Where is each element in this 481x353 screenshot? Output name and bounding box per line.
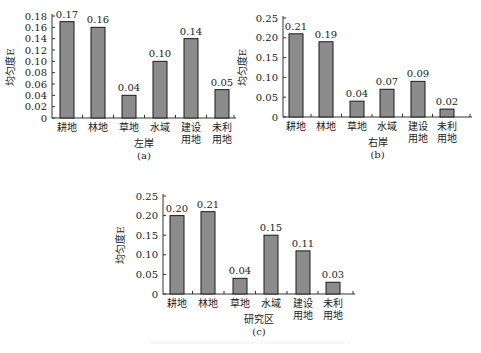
category-label: 建设 bbox=[408, 120, 428, 132]
category-label: 耕地 bbox=[57, 121, 77, 133]
bar-value-label: 0.10 bbox=[149, 48, 171, 59]
category-label: 用地 bbox=[323, 309, 343, 321]
category-label: 林地 bbox=[316, 120, 336, 132]
bar bbox=[60, 22, 74, 118]
category-label: 用地 bbox=[212, 133, 232, 145]
bar-value-label: 0.20 bbox=[166, 203, 188, 214]
y-tick-label: 0 bbox=[152, 289, 158, 300]
y-tick-label: 0.16 bbox=[25, 22, 47, 33]
x-axis-title: 研究区 bbox=[244, 313, 274, 325]
y-tick-label: 0.18 bbox=[25, 11, 47, 22]
y-tick-label: 0.10 bbox=[25, 56, 47, 67]
bar-value-label: 0.14 bbox=[180, 26, 202, 37]
y-tick-label: 0.06 bbox=[25, 79, 47, 90]
bar-value-label: 0.09 bbox=[407, 68, 429, 79]
bar bbox=[350, 101, 364, 117]
category-label: 建设 bbox=[181, 121, 201, 133]
bar-value-label: 0.21 bbox=[285, 21, 307, 32]
y-tick-label: 0.14 bbox=[25, 33, 47, 44]
category-label: 未利 bbox=[212, 122, 232, 133]
panel-label: (c) bbox=[252, 326, 266, 337]
category-label: 水域 bbox=[150, 121, 170, 133]
category-label: 未利 bbox=[437, 121, 457, 132]
bar-value-label: 0.04 bbox=[346, 88, 368, 99]
y-tick-label: 0.25 bbox=[136, 191, 158, 202]
bar bbox=[215, 90, 229, 118]
y-tick-label: 0.15 bbox=[136, 230, 158, 241]
bar bbox=[201, 212, 215, 294]
bar bbox=[91, 27, 105, 118]
bar bbox=[296, 251, 310, 294]
bar-value-label: 0.02 bbox=[436, 96, 458, 107]
figure-canvas: 00.020.040.060.080.100.120.140.160.180.1… bbox=[0, 0, 481, 353]
bar bbox=[233, 278, 247, 294]
y-axis-title: 均匀度E bbox=[4, 48, 16, 85]
bar-value-label: 0.19 bbox=[315, 29, 337, 40]
bar bbox=[153, 61, 167, 118]
y-axis-title: 均匀度E bbox=[236, 49, 248, 86]
x-axis-title: 右岸 bbox=[368, 136, 388, 148]
bar-value-label: 0.05 bbox=[211, 77, 233, 88]
bar-value-label: 0.03 bbox=[322, 269, 344, 280]
category-label: 耕地 bbox=[167, 297, 187, 309]
category-label: 用地 bbox=[408, 132, 428, 144]
chart-panel-b: 00.050.100.150.200.250.21耕地0.19林地0.04草地0… bbox=[236, 13, 472, 161]
y-tick-label: 0.08 bbox=[25, 67, 47, 78]
category-label: 草地 bbox=[230, 297, 250, 309]
figure-caption-faded bbox=[150, 338, 350, 344]
bar bbox=[170, 216, 184, 294]
bar bbox=[319, 42, 333, 117]
y-tick-label: 0.10 bbox=[256, 72, 278, 83]
bar bbox=[326, 282, 340, 294]
category-label: 用地 bbox=[437, 132, 457, 144]
panel-label: (a) bbox=[137, 150, 151, 161]
category-label: 耕地 bbox=[286, 120, 306, 132]
category-label: 建设 bbox=[293, 297, 313, 309]
bar bbox=[122, 95, 136, 118]
bar bbox=[264, 235, 278, 294]
bar bbox=[411, 81, 425, 117]
category-label: 草地 bbox=[347, 120, 367, 132]
x-axis-title: 左岸 bbox=[134, 137, 154, 149]
bar-value-label: 0.11 bbox=[292, 238, 314, 249]
bar bbox=[289, 34, 303, 117]
y-tick-label: 0.02 bbox=[25, 101, 47, 112]
chart-panel-c: 00.050.100.150.200.250.20耕地0.21林地0.04草地0… bbox=[114, 191, 355, 338]
y-tick-label: 0.05 bbox=[136, 269, 158, 280]
category-label: 林地 bbox=[88, 121, 108, 133]
panel-label: (b) bbox=[370, 149, 384, 160]
category-label: 用地 bbox=[181, 133, 201, 145]
y-tick-label: 0.20 bbox=[256, 32, 278, 43]
bar-value-label: 0.16 bbox=[87, 14, 109, 25]
category-label: 草地 bbox=[119, 121, 139, 133]
chart-panel-a: 00.020.040.060.080.100.120.140.160.180.1… bbox=[4, 9, 236, 161]
bar-value-label: 0.15 bbox=[260, 222, 282, 233]
y-tick-label: 0.04 bbox=[25, 90, 47, 101]
category-label: 水域 bbox=[261, 297, 281, 309]
y-tick-label: 0.20 bbox=[136, 210, 158, 221]
y-tick-label: 0.25 bbox=[256, 13, 278, 24]
category-label: 用地 bbox=[293, 309, 313, 321]
bar-value-label: 0.21 bbox=[197, 199, 219, 210]
y-tick-label: 0.12 bbox=[25, 45, 47, 56]
category-label: 水域 bbox=[377, 120, 397, 132]
bar bbox=[184, 39, 198, 118]
y-axis-title: 均匀度E bbox=[114, 226, 126, 263]
y-tick-label: 0.05 bbox=[256, 92, 278, 103]
category-label: 未利 bbox=[323, 298, 343, 309]
bar-value-label: 0.04 bbox=[229, 265, 251, 276]
bar-value-label: 0.17 bbox=[56, 9, 78, 20]
category-label: 林地 bbox=[198, 297, 218, 309]
y-tick-label: 0.10 bbox=[136, 249, 158, 260]
bar bbox=[440, 109, 454, 117]
bar-value-label: 0.07 bbox=[376, 76, 398, 87]
bar-value-label: 0.04 bbox=[118, 82, 140, 93]
y-tick-label: 0.15 bbox=[256, 52, 278, 63]
bar bbox=[380, 89, 394, 117]
y-tick-label: 0 bbox=[41, 113, 47, 124]
y-tick-label: 0 bbox=[272, 112, 278, 123]
